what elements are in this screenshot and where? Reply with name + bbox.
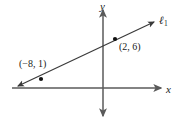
line-graph-figure: y x ℓ1 (−8, 1) (2, 6) [0,0,188,128]
point-label-2-6: (2, 6) [119,42,141,52]
point-label-neg8-1: (−8, 1) [19,59,46,69]
line-l1-label-subscript: 1 [164,19,168,28]
point-marker-neg8-1 [39,77,43,81]
y-axis-label: y [100,1,105,12]
line-l1 [18,22,154,86]
line-l1-label-text: ℓ [159,14,164,26]
line-l1-label: ℓ1 [159,15,168,28]
x-axis-label: x [166,84,171,95]
point-marker-2-6 [113,37,117,41]
